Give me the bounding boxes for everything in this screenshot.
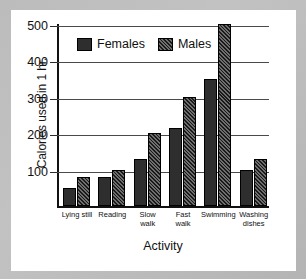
bar-females-0: [63, 188, 76, 206]
bar-males-1: [112, 170, 125, 206]
y-tick-500: [50, 26, 57, 27]
x-axis-label: Activity: [57, 239, 269, 253]
y-tick-100: [50, 172, 57, 173]
y-tick-label-100: 100: [27, 165, 48, 179]
y-tick-label-200: 200: [27, 128, 48, 142]
bar-group: Washingdishes: [240, 24, 269, 206]
y-tick-200: [50, 135, 57, 136]
category-label: Washingdishes: [228, 210, 280, 228]
bar-males-2: [148, 133, 161, 206]
image-background: Calories used in 1 hr. 100200300400500 L…: [0, 0, 306, 279]
legend-swatch-females-icon: [77, 38, 92, 51]
bar-males-4: [218, 24, 231, 206]
bar-females-5: [240, 170, 253, 206]
bar-females-4: [204, 79, 217, 206]
bar-chart-figure: Calories used in 1 hr. 100200300400500 L…: [11, 10, 296, 271]
y-tick-300: [50, 99, 57, 100]
legend-label-females: Females: [97, 37, 145, 51]
legend-entry-females: Females: [77, 37, 145, 51]
y-tick-400: [50, 62, 57, 63]
bar-females-3: [169, 128, 182, 206]
x-axis-line: [57, 206, 269, 208]
bar-group: Fastwalk: [169, 24, 198, 206]
category-label-line2: walk: [157, 219, 209, 228]
y-tick-label-400: 400: [27, 55, 48, 69]
bar-females-2: [134, 159, 147, 206]
legend-label-males: Males: [178, 37, 211, 51]
bar-females-1: [98, 177, 111, 206]
legend-swatch-males-icon: [158, 38, 173, 51]
chart-legend: Females Males: [77, 37, 211, 51]
chart-card: Calories used in 1 hr. 100200300400500 L…: [11, 10, 296, 271]
bar-group: Slowwalk: [134, 24, 163, 206]
legend-entry-males: Males: [158, 37, 211, 51]
bar-group: Lying still: [63, 24, 92, 206]
bar-males-5: [254, 159, 267, 206]
category-label-line1: Washing: [228, 210, 280, 219]
bar-males-3: [183, 97, 196, 206]
y-axis-line: [57, 24, 59, 208]
y-tick-label-500: 500: [27, 19, 48, 33]
bar-group: Reading: [98, 24, 127, 206]
bar-males-0: [77, 177, 90, 206]
bar-group: Swimming: [204, 24, 233, 206]
category-label-line2: dishes: [228, 219, 280, 228]
plot-area: 100200300400500 Lying stillReadingSlowwa…: [57, 24, 269, 208]
y-tick-label-300: 300: [27, 92, 48, 106]
